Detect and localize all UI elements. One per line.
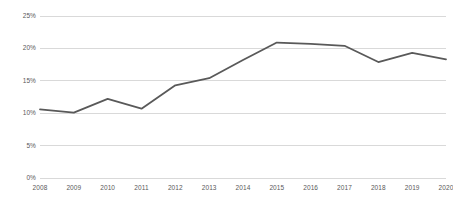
y-tick-label: 25%: [2, 13, 36, 20]
series-line: [40, 43, 446, 113]
y-tick-label: 5%: [2, 142, 36, 149]
y-axis: 0%5%10%15%20%25%: [0, 0, 36, 209]
y-tick-label: 0%: [2, 175, 36, 182]
y-tick-label: 15%: [2, 78, 36, 85]
y-tick-label: 20%: [2, 45, 36, 52]
y-tick-label: 10%: [2, 110, 36, 117]
gridlines: [40, 16, 446, 178]
data-series: [40, 43, 446, 113]
